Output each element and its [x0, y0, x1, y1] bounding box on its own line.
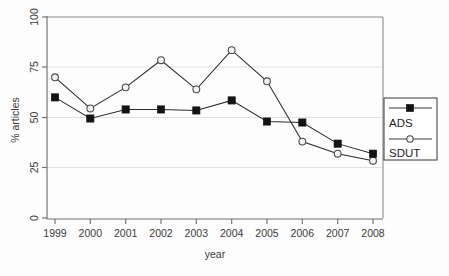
- chart-legend[interactable]: ADS SDUT: [384, 98, 437, 160]
- x-axis: 1999 2000 2001 2002 2003 2004 2005 2006 …: [43, 219, 385, 260]
- legend-marker-filled-square: [407, 105, 414, 112]
- data-point-ads-2005: [263, 118, 270, 125]
- data-point-sdut-2000: [87, 105, 94, 112]
- x-tick-label-2000: 2000: [79, 227, 103, 239]
- series-ads-markers: [51, 94, 376, 157]
- data-point-ads-2008: [369, 150, 376, 157]
- series-ads-line: [55, 97, 373, 153]
- y-tick-label-75: 75: [28, 61, 40, 73]
- data-point-sdut-2002: [158, 57, 165, 64]
- line-chart: 100 75 50 25 0 % articles 1999 2000 2001…: [0, 0, 449, 276]
- legend-marker-open-circle: [407, 136, 413, 142]
- y-axis-title: % articles: [9, 97, 21, 143]
- chart-figure: 100 75 50 25 0 % articles 1999 2000 2001…: [0, 0, 449, 276]
- data-point-sdut-2005: [264, 78, 271, 85]
- legend-label-sdut[interactable]: SDUT: [389, 147, 420, 159]
- x-tick-label-2007: 2007: [326, 227, 350, 239]
- data-point-ads-2000: [87, 115, 94, 122]
- x-axis-title: year: [205, 248, 226, 260]
- data-point-ads-2003: [193, 107, 200, 114]
- data-point-sdut-2004: [228, 47, 235, 54]
- data-point-sdut-1999: [52, 74, 59, 81]
- data-point-ads-2004: [228, 97, 235, 104]
- x-tick-label-2006: 2006: [291, 227, 315, 239]
- x-tick-label-2003: 2003: [185, 227, 209, 239]
- data-point-sdut-2006: [299, 138, 306, 145]
- data-point-ads-2007: [334, 140, 341, 147]
- data-point-ads-2006: [299, 119, 306, 126]
- data-point-ads-1999: [51, 94, 58, 101]
- x-tick-label-2008: 2008: [361, 227, 385, 239]
- data-point-sdut-2007: [334, 150, 341, 157]
- data-point-sdut-2003: [193, 86, 200, 93]
- x-tick-label-2005: 2005: [255, 227, 279, 239]
- data-point-sdut-2001: [122, 84, 129, 91]
- x-tick-label-2004: 2004: [220, 227, 244, 239]
- x-tick-label-1999: 1999: [43, 227, 67, 239]
- y-tick-label-0: 0: [28, 215, 40, 221]
- y-tick-label-50: 50: [28, 112, 40, 124]
- y-tick-label-25: 25: [28, 162, 40, 174]
- data-point-ads-2001: [122, 106, 129, 113]
- series-ads: [51, 94, 376, 157]
- data-point-ads-2002: [157, 106, 164, 113]
- data-point-sdut-2008: [370, 157, 377, 164]
- legend-label-ads[interactable]: ADS: [389, 117, 413, 129]
- y-tick-label-100: 100: [28, 8, 40, 26]
- x-tick-label-2001: 2001: [114, 227, 138, 239]
- y-axis: 100 75 50 25 0 % articles: [9, 8, 47, 221]
- x-tick-label-2002: 2002: [149, 227, 173, 239]
